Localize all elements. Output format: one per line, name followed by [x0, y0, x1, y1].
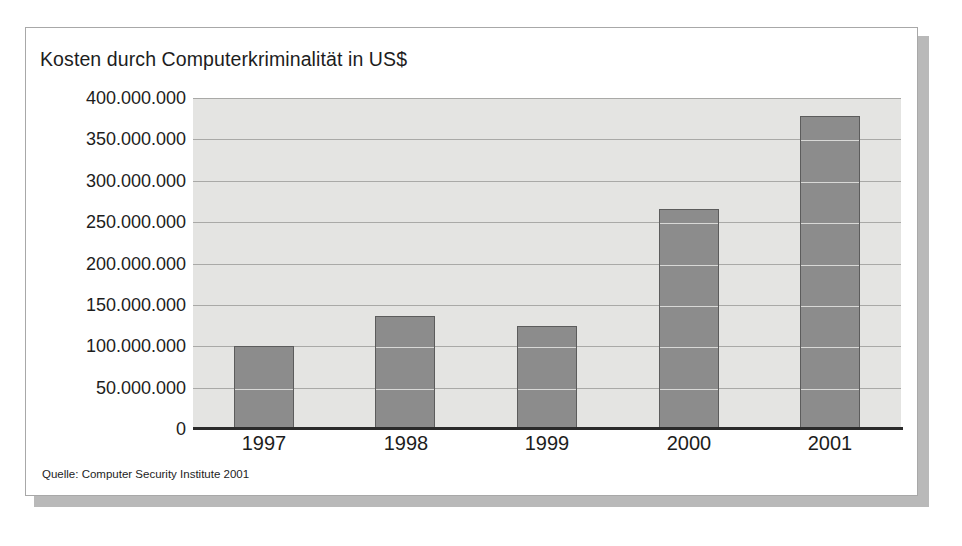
bar-gridline: [801, 306, 859, 307]
x-axis-line: [193, 427, 903, 430]
x-tick-label: 2001: [759, 432, 901, 455]
bar-1997: [234, 346, 294, 429]
y-axis: 400.000.000350.000.000300.000.000250.000…: [26, 98, 186, 429]
y-tick-label: 250.000.000: [28, 212, 186, 233]
x-tick-label: 1997: [193, 432, 335, 455]
gridline: [193, 139, 901, 140]
bar-gridline: [801, 347, 859, 348]
gridline: [193, 305, 901, 306]
bar-gridline: [518, 347, 576, 348]
y-tick-label: 0: [28, 419, 186, 440]
x-axis: 19971998199920002001: [193, 432, 901, 466]
gridline: [193, 181, 901, 182]
y-tick-label: 200.000.000: [28, 253, 186, 274]
bar-gridline: [801, 389, 859, 390]
bar-chart: 400.000.000350.000.000300.000.000250.000…: [26, 28, 917, 495]
bar-gridline: [801, 223, 859, 224]
bar-gridline: [801, 265, 859, 266]
y-tick-label: 350.000.000: [28, 129, 186, 150]
gridline: [193, 98, 901, 99]
bar-gridline: [660, 306, 718, 307]
bar-gridline: [660, 347, 718, 348]
bar-2001: [800, 116, 860, 429]
y-tick-label: 50.000.000: [28, 377, 186, 398]
bar-1999: [517, 326, 577, 429]
bar-gridline: [376, 389, 434, 390]
bar-1998: [375, 316, 435, 429]
bar-gridline: [235, 389, 293, 390]
bar-gridline: [518, 389, 576, 390]
bar-gridline: [660, 223, 718, 224]
bar-2000: [659, 209, 719, 429]
plot-area: [193, 98, 901, 429]
gridline: [193, 222, 901, 223]
bar-gridline: [660, 389, 718, 390]
bar-gridline: [801, 182, 859, 183]
bar-gridline: [801, 140, 859, 141]
x-tick-label: 2000: [618, 432, 760, 455]
y-tick-label: 150.000.000: [28, 294, 186, 315]
y-tick-label: 400.000.000: [28, 88, 186, 109]
y-tick-label: 100.000.000: [28, 336, 186, 357]
bar-gridline: [376, 347, 434, 348]
gridline: [193, 264, 901, 265]
x-tick-label: 1999: [476, 432, 618, 455]
y-tick-label: 300.000.000: [28, 170, 186, 191]
x-tick-label: 1998: [335, 432, 477, 455]
bar-gridline: [660, 265, 718, 266]
chart-source-note: Quelle: Computer Security Institute 2001: [42, 468, 249, 480]
figure-card: Kosten durch Computerkriminalität in US$…: [25, 27, 918, 496]
